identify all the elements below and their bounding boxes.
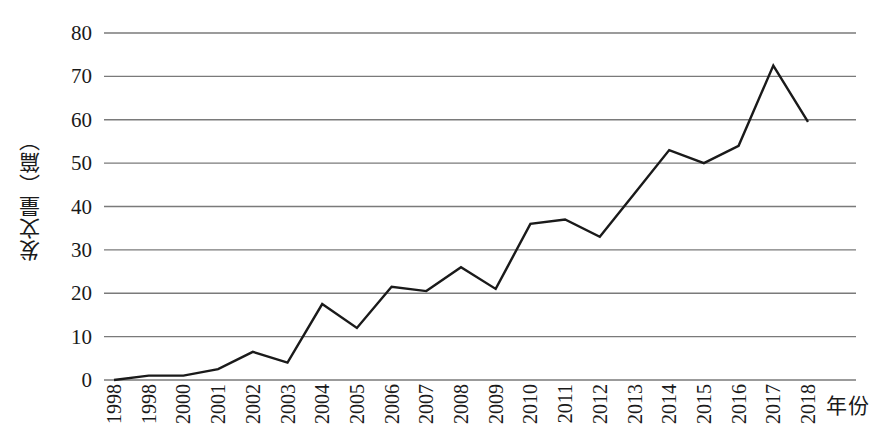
x-tick-17: 2015 [694, 384, 714, 424]
x-tick-3: 2001 [208, 384, 228, 424]
x-tick-20: 2018 [798, 384, 818, 424]
y-tick-50: 50 [50, 153, 92, 174]
plot-svg [104, 0, 856, 447]
y-tick-0: 0 [50, 370, 92, 391]
x-tick-19: 2017 [763, 384, 783, 424]
x-tick-12: 2010 [520, 384, 540, 424]
y-tick-10: 10 [50, 326, 92, 347]
y-tick-40: 40 [50, 196, 92, 217]
x-tick-2: 2000 [173, 384, 193, 424]
x-tick-14: 2012 [590, 384, 610, 424]
x-tick-11: 2009 [486, 384, 506, 424]
y-axis-title: 发文量（篇） [8, 0, 54, 390]
x-tick-9: 2007 [416, 384, 436, 424]
x-tick-18: 2016 [729, 384, 749, 424]
x-tick-5: 2003 [278, 384, 298, 424]
x-tick-13: 2011 [555, 384, 575, 423]
x-tick-6: 2004 [312, 384, 332, 424]
gridlines [104, 33, 856, 380]
x-tick-4: 2002 [243, 384, 263, 424]
x-axis-title: 年份 [826, 396, 870, 417]
y-axis-title-label: 发文量（篇） [21, 129, 42, 261]
series-line-fawenliang [114, 66, 808, 380]
line-chart: 发文量（篇） 01020304050607080 199819982000200… [0, 0, 884, 447]
y-tick-60: 60 [50, 109, 92, 130]
y-axis-tick-labels: 01020304050607080 [50, 0, 92, 447]
x-tick-8: 2006 [382, 384, 402, 424]
x-tick-16: 2014 [659, 384, 679, 424]
y-tick-70: 70 [50, 66, 92, 87]
y-tick-30: 30 [50, 239, 92, 260]
y-tick-20: 20 [50, 283, 92, 304]
x-axis-tick-labels: 1998199820002001200220032004200520062007… [104, 384, 856, 447]
y-tick-80: 80 [50, 23, 92, 44]
x-tick-0: 1998 [104, 384, 124, 424]
x-tick-15: 2013 [625, 384, 645, 424]
x-tick-10: 2008 [451, 384, 471, 424]
x-tick-7: 2005 [347, 384, 367, 424]
plot-area [104, 0, 856, 447]
x-tick-1: 1998 [139, 384, 159, 424]
